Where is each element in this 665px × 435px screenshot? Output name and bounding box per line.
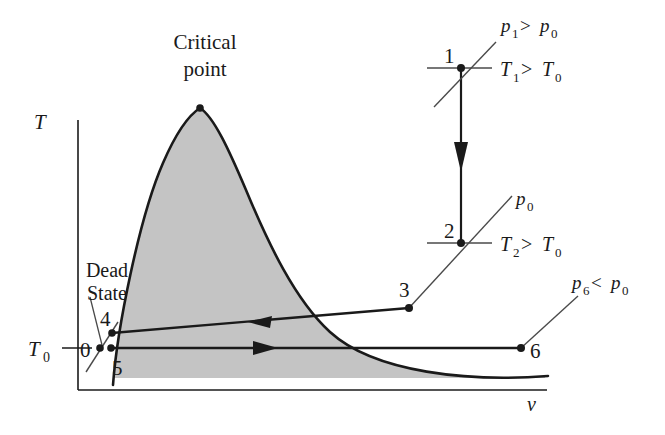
y-axis-tick-label-base: T bbox=[28, 337, 41, 361]
state-label-6: 6 bbox=[530, 339, 541, 363]
pressure-label-p1-relation: > bbox=[520, 15, 531, 36]
pressure-label-p6-relation: < bbox=[591, 272, 602, 293]
x-axis-label: v bbox=[527, 393, 536, 415]
dead-state-label-line2: State bbox=[87, 282, 127, 304]
temperature-label-T2: T 2 > T 0 bbox=[500, 233, 562, 260]
process-line-1-to-2 bbox=[454, 68, 468, 243]
pressure-label-p0-sub: 0 bbox=[527, 199, 534, 214]
y-axis-tick-label: T 0 bbox=[28, 337, 50, 365]
pressure-label-p0: p 0 bbox=[514, 188, 534, 214]
temperature-label-T2-relation: > bbox=[521, 233, 532, 255]
temperature-label-T1-sub: 1 bbox=[513, 70, 520, 85]
temperature-label-T2-base: T bbox=[500, 233, 513, 255]
dead-state-label-line1: Dead bbox=[86, 259, 128, 281]
diagram-canvas: Critical point Dead State T v T 0 0 1 2 … bbox=[0, 0, 665, 435]
y-axis-label: T bbox=[34, 110, 47, 134]
state-label-4: 4 bbox=[100, 307, 111, 331]
pressure-label-p0-base: p bbox=[514, 188, 526, 209]
y-axis-tick-label-sub: 0 bbox=[43, 350, 50, 365]
state-point-dot-6 bbox=[517, 344, 525, 352]
pressure-label-p1-base2: p bbox=[538, 15, 550, 36]
state-label-2: 2 bbox=[444, 219, 455, 243]
critical-point-label-line2: point bbox=[183, 57, 226, 81]
state-label-5: 5 bbox=[112, 356, 123, 380]
temperature-label-T2-sub2: 0 bbox=[555, 245, 562, 260]
temperature-label-T1-base2: T bbox=[542, 58, 555, 80]
pressure-label-p6-base: p bbox=[570, 272, 582, 293]
critical-point-dot bbox=[196, 104, 204, 112]
pressure-label-p1: p 1 > p 0 bbox=[499, 15, 558, 41]
pressure-label-p6: p 6 < p 0 bbox=[570, 272, 629, 298]
state-label-3: 3 bbox=[399, 278, 410, 302]
process-1-2-arrowhead bbox=[454, 142, 468, 172]
state-label-0: 0 bbox=[80, 338, 91, 362]
temperature-label-T1-base: T bbox=[500, 58, 513, 80]
state-point-dot-2 bbox=[457, 239, 465, 247]
state-point-dot-5 bbox=[107, 344, 115, 352]
pressure-label-p6-sub: 6 bbox=[583, 283, 590, 298]
temperature-label-T1: T 1 > T 0 bbox=[500, 58, 562, 85]
temperature-label-T2-base2: T bbox=[542, 233, 555, 255]
pressure-label-p1-sub2: 0 bbox=[551, 26, 558, 41]
state-point-dot-0 bbox=[96, 344, 104, 352]
temperature-label-T2-sub: 2 bbox=[513, 245, 520, 260]
pressure-label-p1-base: p bbox=[499, 15, 511, 36]
temperature-label-T1-sub2: 0 bbox=[555, 70, 562, 85]
state-label-1: 1 bbox=[444, 44, 455, 68]
pressure-label-p1-sub: 1 bbox=[512, 26, 519, 41]
critical-point-label-line1: Critical bbox=[174, 30, 237, 54]
temperature-label-T1-relation: > bbox=[521, 58, 532, 80]
pressure-label-p6-base2: p bbox=[609, 272, 621, 293]
state-point-dot-3 bbox=[405, 304, 413, 312]
pressure-label-p6-sub2: 0 bbox=[622, 283, 629, 298]
state-point-dot-1 bbox=[457, 64, 465, 72]
saturation-dome bbox=[113, 108, 548, 385]
tv-diagram-figure: Critical point Dead State T v T 0 0 1 2 … bbox=[0, 0, 665, 435]
